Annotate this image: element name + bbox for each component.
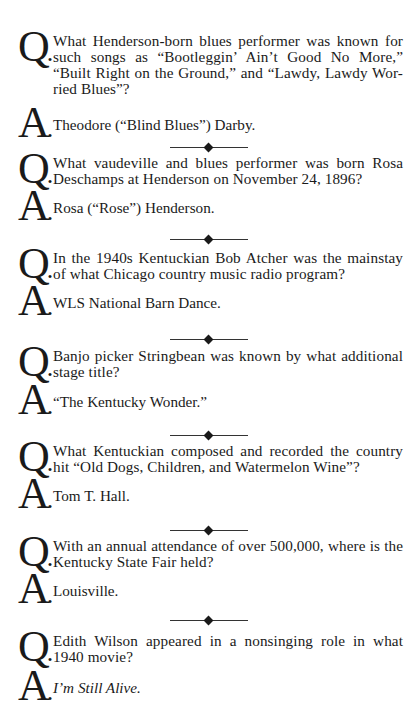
q-marker: Q.: [18, 27, 56, 73]
answer-5: A. Tom T. Hall.: [18, 474, 403, 504]
a-marker: A.: [18, 380, 56, 426]
answer-text: Louisville.: [53, 569, 403, 599]
answer-3: A. WLS National Barn Dance.: [18, 281, 403, 311]
answer-text: I’m Still Alive.: [53, 666, 403, 696]
question-4: Q. Banjo picker Stringbean was known by …: [18, 342, 403, 380]
question-text: What vaudeville and blues performer was …: [53, 149, 403, 187]
answer-text: Tom T. Hall.: [53, 474, 403, 504]
question-7: Q. Edith Wilson appeared in a nonsinging…: [18, 627, 403, 665]
answer-text: “The Kentucky Wonder.”: [53, 380, 403, 410]
a-marker: A.: [18, 569, 56, 615]
answer-text: WLS National Barn Dance.: [53, 281, 403, 311]
a-marker: A.: [18, 281, 56, 327]
answer-7: A. I’m Still Alive.: [18, 666, 403, 696]
a-marker: A.: [18, 186, 56, 232]
diamond-ornament-icon: [203, 615, 213, 625]
a-marker: A.: [18, 103, 56, 149]
a-marker: A.: [18, 666, 56, 701]
question-text: In the 1940s Kentuckian Bob Atcher was t…: [53, 244, 403, 282]
question-5: Q. What Kentuckian composed and recorded…: [18, 437, 403, 475]
diamond-ornament-icon: [203, 234, 213, 244]
question-text: What Kentuckian composed and recorded th…: [53, 437, 403, 475]
a-marker: A.: [18, 474, 56, 520]
question-text: With an annual attendance of over 500,00…: [53, 532, 403, 570]
section-divider: [170, 615, 248, 625]
question-6: Q. With an annual attendance of over 500…: [18, 532, 403, 570]
answer-1: A. Theodore (“Blind Blues”) Darby.: [18, 103, 403, 133]
answer-2: A. Rosa (“Rose”) Henderson.: [18, 186, 403, 216]
section-divider: [170, 234, 248, 244]
answer-text: Rosa (“Rose”) Henderson.: [53, 186, 403, 216]
question-1: Q. What Henderson-born blues performer w…: [18, 27, 403, 97]
question-text: Edith Wilson appeared in a nonsinging ro…: [53, 627, 403, 665]
answer-6: A. Louisville.: [18, 569, 403, 599]
answer-text: Theodore (“Blind Blues”) Darby.: [53, 103, 403, 133]
question-text: Banjo picker Stringbean was known by wha…: [53, 342, 403, 380]
answer-4: A. “The Kentucky Wonder.”: [18, 380, 403, 410]
question-3: Q. In the 1940s Kentuckian Bob Atcher wa…: [18, 244, 403, 282]
question-text: What Henderson-born blues performer was …: [53, 27, 403, 97]
question-2: Q. What vaudeville and blues performer w…: [18, 149, 403, 187]
